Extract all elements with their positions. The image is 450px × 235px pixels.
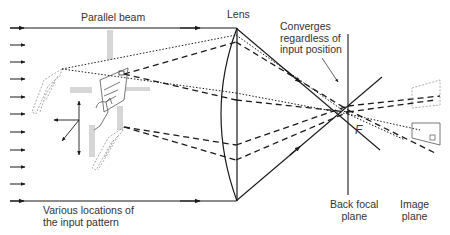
- ghost-pattern-upper: [32, 69, 62, 114]
- motion-arrows: [54, 101, 79, 155]
- dotted-rays: [62, 35, 420, 140]
- parallel-beam-label: Parallel beam: [81, 12, 145, 24]
- lens-label: Lens: [227, 9, 250, 21]
- input-ray-arrows: [10, 45, 25, 184]
- back-focal-plane-label: Back focal plane: [330, 199, 378, 222]
- dashed-rays: [124, 42, 440, 160]
- optics-diagram: [0, 0, 450, 235]
- image-plane-line: [382, 77, 410, 155]
- lens: [221, 28, 237, 201]
- image-plane-label: Image plane: [400, 199, 429, 222]
- lens-curved-side: [221, 28, 237, 201]
- output-image: [412, 123, 440, 145]
- ghost-output-image: [412, 80, 440, 108]
- various-locations-label: Various locations of the input pattern: [43, 205, 134, 228]
- input-pattern: [32, 30, 150, 170]
- output-images: [412, 80, 440, 145]
- converges-label: Converges regardless of input position: [280, 21, 342, 56]
- motion-arrow-diag: [62, 120, 79, 141]
- hand-with-slide: [94, 68, 128, 130]
- focal-point-label: F: [355, 125, 362, 137]
- ghost-pattern-lower: [92, 127, 124, 170]
- converges-pointer-arrow: [322, 58, 338, 82]
